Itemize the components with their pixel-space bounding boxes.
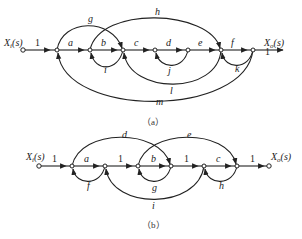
diagram-b: Xi(s) Xo(s) 1 a 1 b 1 c 1 d e f g h i （b… [25,129,292,230]
signal-flow-graphs: Xi(s) Xo(s) 1 a b c d e f 1 g h i j k l … [0,0,302,239]
gain-a-f: f [231,37,235,48]
gain-b-a: a [84,153,89,164]
node-b5 [202,164,206,168]
label-g: g [88,13,93,24]
gain-a-e: e [198,37,203,48]
gain-b-1: 1 [118,153,123,164]
gain-b-0: 1 [52,153,57,164]
node-a2 [88,48,92,52]
label-i-b: i [152,200,155,211]
node-b1 [70,164,74,168]
node-a4 [153,48,157,52]
gain-a-out: 1 [265,46,270,57]
node-a5 [186,48,190,52]
node-output-b [267,164,271,168]
gain-a-c: c [134,37,139,48]
branch-j [156,50,188,65]
node-b3 [136,164,140,168]
label-m: m [156,96,163,107]
branch-g [57,26,122,50]
gain-a-a: a [68,37,73,48]
node-input-b [37,164,41,168]
gain-b-out: 1 [250,153,255,164]
label-e: e [187,129,192,140]
input-label-b: Xi(s) [25,151,45,164]
label-d: d [122,129,128,140]
node-a7 [251,48,255,52]
node-input-a [21,48,25,52]
label-h-b: h [219,180,224,191]
node-a6 [219,48,223,52]
gain-b-2: 1 [184,153,189,164]
input-label-a: Xi(s) [3,37,23,50]
label-i: i [104,64,107,75]
label-h: h [155,6,160,17]
diagram-a: Xi(s) Xo(s) 1 a b c d e f 1 g h i j k l … [3,6,285,127]
node-b4 [169,164,173,168]
gain-a-0: 1 [35,37,40,48]
gain-a-d: d [166,37,172,48]
gain-b-c: c [216,153,221,164]
label-k: k [235,63,240,74]
gain-a-b: b [101,37,106,48]
gain-b-b: b [151,153,156,164]
branch-i [91,50,123,67]
caption-b: （b） [142,220,165,230]
label-j: j [166,65,171,76]
node-a1 [55,48,59,52]
node-a3 [121,48,125,52]
caption-a: （a） [142,117,164,127]
branch-g-b [139,166,171,181]
branch-l [124,50,221,84]
node-b6 [235,164,239,168]
node-b2 [103,164,107,168]
label-l: l [170,85,173,96]
output-label-b: Xo(s) [270,151,292,164]
label-g-b: g [152,182,157,193]
